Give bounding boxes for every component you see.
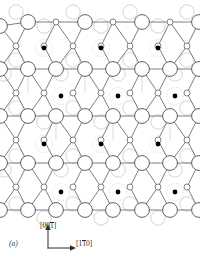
overbar — [50, 222, 54, 223]
panel-label: (a) — [9, 240, 18, 248]
axis-arrows — [0, 214, 200, 269]
crystal-structure-diagram — [0, 0, 200, 232]
axis-label-horizontal-tail: 0] — [86, 239, 92, 248]
overbar — [82, 240, 86, 241]
axis-label-vertical-overbar-digit: 1 — [50, 222, 54, 230]
axis-label-vertical-tail: ] — [54, 221, 57, 230]
figure-root: [001] [110] (a) — [0, 0, 200, 269]
axis-label-horizontal: [110] — [76, 240, 92, 248]
axis-label-vertical: [001] — [40, 222, 56, 230]
axis-label-horizontal-overbar-digit: 1 — [82, 240, 86, 248]
axis-label-vertical-prefix: [00 — [40, 221, 50, 230]
axis-indicator — [0, 214, 200, 269]
